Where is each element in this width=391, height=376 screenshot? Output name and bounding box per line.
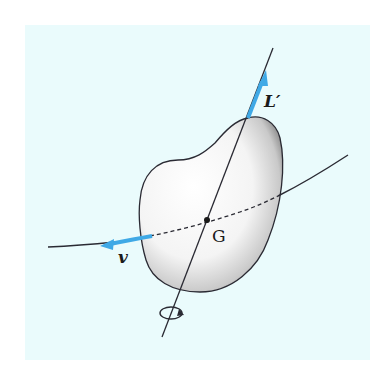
angular-momentum-vector (248, 82, 262, 118)
center-of-mass-point (204, 217, 210, 223)
rigid-body-diagram: L′ v G (0, 0, 391, 376)
center-of-mass-label: G (212, 226, 226, 246)
velocity-arrowhead (100, 239, 114, 250)
angular-momentum-label: L′ (263, 91, 281, 111)
velocity-label: v (118, 247, 129, 267)
rotation-arrow-icon (160, 307, 184, 319)
trajectory-right (278, 155, 348, 196)
